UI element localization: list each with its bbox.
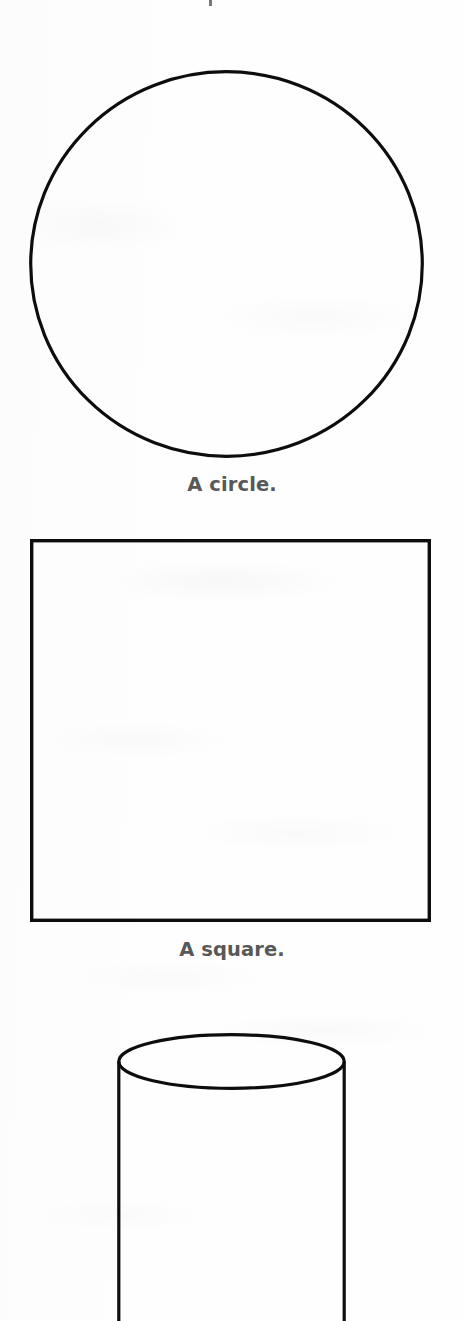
caption-circle: A circle. bbox=[0, 473, 464, 496]
cylinder-shape-icon bbox=[117, 1033, 346, 1321]
cylinder-top-ellipse bbox=[119, 1035, 344, 1089]
clipped-text-mark-icon bbox=[209, 0, 212, 6]
circle-outline bbox=[31, 72, 423, 457]
square-outline bbox=[32, 541, 430, 921]
circle-shape-icon bbox=[29, 70, 424, 458]
figure-circle bbox=[29, 70, 424, 458]
figure-page: A circle. A square. bbox=[0, 0, 464, 1321]
figure-cylinder bbox=[117, 1033, 346, 1321]
caption-square: A square. bbox=[0, 938, 464, 961]
square-shape-icon bbox=[30, 539, 431, 922]
figure-square bbox=[30, 539, 431, 922]
